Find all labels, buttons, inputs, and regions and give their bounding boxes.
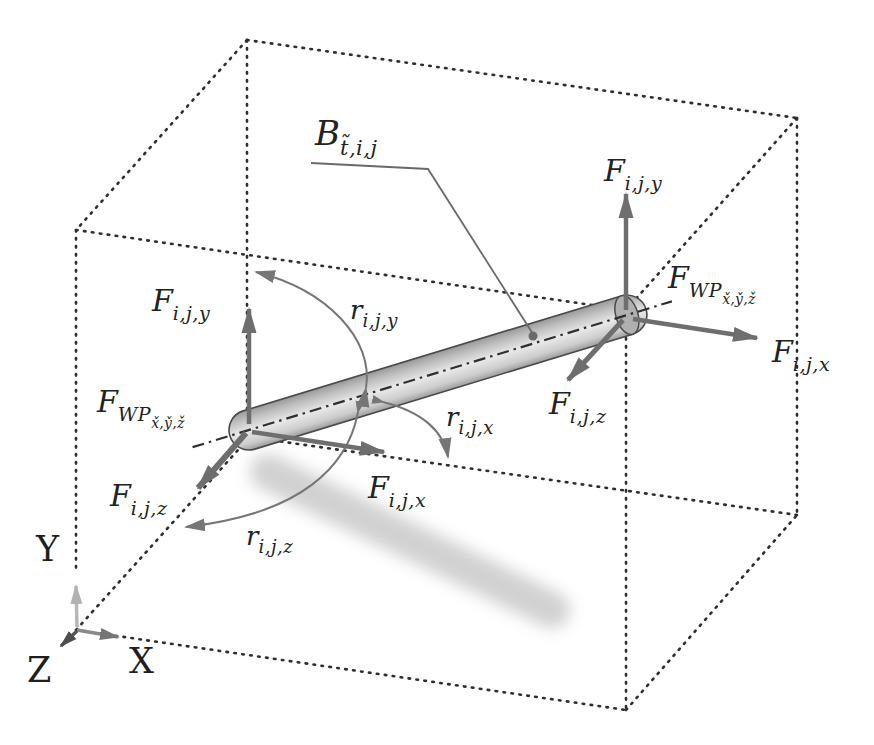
label-axis-y: Y (36, 532, 59, 567)
figure-canvas: Bt̃,i,j Fi,j,y FWPx̌,y̌,ž Fi,j,z Fi,j,x … (0, 0, 874, 745)
label-rotation-z: ri,j,z (246, 523, 293, 549)
label-force-right-x: Fi,j,x (772, 337, 830, 367)
label-weld-point-right: FWPx̌,y̌,ž (668, 263, 756, 293)
box-edge-bottom-right (626, 515, 797, 710)
arrow-force-left-z (198, 433, 246, 488)
axis-y-arrow (76, 586, 77, 627)
axis-z-arrow (61, 631, 77, 646)
label-force-right-z: Fi,j,z (549, 389, 606, 419)
label-rotation-y: ri,j,y (350, 297, 398, 323)
label-force-right-y: Fi,j,y (604, 156, 662, 186)
diagram-svg (0, 0, 874, 745)
arrow-force-right-x (633, 319, 757, 338)
axis-x-arrow (77, 630, 118, 637)
label-rotation-x: ri,j,x (446, 404, 494, 430)
coordinate-axes (61, 586, 118, 646)
leader-line (311, 163, 533, 334)
label-force-left-x: Fi,j,x (368, 473, 426, 503)
arc-rotation-x (383, 402, 448, 457)
label-axis-x: X (129, 644, 154, 679)
arc-rotation-y (256, 272, 367, 388)
beam-label-leader (311, 163, 538, 341)
label-force-left-z: Fi,j,z (110, 481, 167, 511)
label-weld-point-left: FWPx̌,y̌,ž (97, 387, 185, 417)
leader-dot (529, 332, 538, 341)
box-edge-top-left (76, 40, 247, 230)
beam (187, 282, 678, 466)
label-axis-z: Z (27, 653, 51, 688)
box-edge-top-back (247, 40, 797, 118)
label-force-left-y: Fi,j,y (152, 286, 210, 316)
box-edge-bottom-left (76, 440, 247, 630)
label-beam: Bt̃,i,j (315, 116, 378, 150)
box-edge-bottom-front (76, 630, 626, 710)
